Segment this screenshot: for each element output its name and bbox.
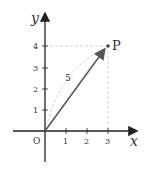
y-tick-1: 1 [33, 106, 38, 115]
y-tick-4: 4 [33, 42, 38, 51]
origin-label: O [33, 136, 40, 146]
point-p [106, 44, 110, 48]
vector-op [45, 50, 104, 131]
x-tick-3: 3 [105, 137, 110, 146]
x-tick-1: 1 [63, 137, 68, 146]
y-tick-3: 3 [33, 64, 38, 73]
x-tick-2: 2 [84, 137, 89, 146]
x-axis-label: x [130, 133, 138, 149]
point-label: P [112, 38, 121, 53]
coordinate-plane: y x O 1 2 3 1 2 3 4 5 P [0, 0, 146, 171]
vector-diagram: y x O 1 2 3 1 2 3 4 5 P [0, 0, 146, 171]
y-tick-2: 2 [33, 85, 38, 94]
y-axis-label: y [30, 10, 40, 26]
magnitude-label: 5 [65, 73, 71, 83]
